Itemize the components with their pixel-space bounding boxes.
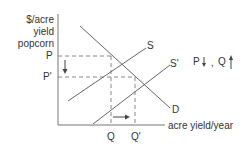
supply-demand-diagram: $/acre yield popcorn P P' Q Q' S S' D ac… bbox=[0, 0, 250, 150]
x-axis-label: acre yield/year bbox=[168, 120, 233, 131]
note-up-arrow-icon bbox=[229, 55, 233, 69]
quantity-label-q-prime: Q' bbox=[131, 131, 141, 142]
y-axis-label-line1: $/acre bbox=[26, 14, 54, 25]
price-down-arrow-icon bbox=[63, 60, 68, 74]
price-label-p-prime: P' bbox=[43, 71, 52, 82]
quantity-right-arrow-icon bbox=[113, 115, 130, 120]
curve-label-s-prime: S' bbox=[170, 58, 179, 69]
supply-curve-s-prime bbox=[93, 65, 170, 124]
note-q: Q bbox=[218, 56, 226, 67]
y-axis-label-line3: popcorn bbox=[18, 38, 54, 49]
y-axis-label-line2: yield bbox=[33, 26, 54, 37]
note-down-arrow-icon bbox=[202, 57, 206, 67]
price-label-p: P bbox=[46, 50, 53, 61]
note-comma: , bbox=[211, 57, 214, 68]
quantity-label-q: Q bbox=[107, 131, 115, 142]
curve-label-s: S bbox=[147, 40, 154, 51]
curve-label-d: D bbox=[172, 104, 179, 115]
demand-curve-d bbox=[80, 26, 170, 108]
note-p: P bbox=[193, 56, 200, 67]
